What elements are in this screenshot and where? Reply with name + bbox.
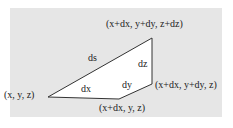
edge-dx-label: dx [81, 83, 91, 94]
vertex-bottom-label: (x+dx, y, z) [99, 102, 145, 113]
edge-dz-label: dz [138, 58, 147, 69]
vertex-right-label: (x+dx, y+dy, z) [155, 79, 217, 90]
triangle-shape [48, 38, 152, 99]
edge-dy-label: dy [122, 79, 132, 90]
vertex-top-label: (x+dx, y+dy, z+dz) [106, 18, 183, 29]
vertex-origin-label: (x, y, z) [4, 89, 34, 100]
edge-ds-label: ds [88, 52, 97, 63]
